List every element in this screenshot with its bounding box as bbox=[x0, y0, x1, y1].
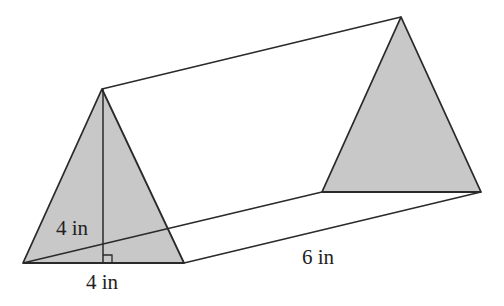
length-label: 6 in bbox=[302, 245, 335, 269]
back-triangle-face bbox=[322, 17, 481, 192]
base-label: 4 in bbox=[86, 270, 119, 294]
height-label: 4 in bbox=[56, 216, 89, 240]
top-edge bbox=[102, 17, 401, 89]
triangular-prism-diagram: 4 in 4 in 6 in bbox=[0, 0, 504, 306]
